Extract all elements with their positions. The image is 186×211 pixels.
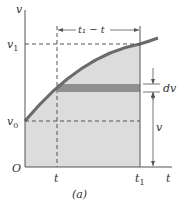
t1-label: t1: [135, 172, 145, 187]
v-height-label: v: [156, 121, 163, 134]
origin-label: O: [12, 162, 21, 175]
dv-arrow-head-top: [151, 79, 155, 84]
arrow-head-left: [58, 28, 63, 32]
t-label: t: [54, 172, 59, 185]
velocity-time-diagram: v v1 v0 O t t1 t t₁ − t dv v (a): [0, 0, 186, 211]
y-axis-label: v: [16, 3, 23, 16]
arrow-head-right: [134, 28, 139, 32]
v1-label: v1: [7, 38, 18, 53]
dv-strip: [58, 84, 140, 92]
dv-label: dv: [163, 82, 177, 95]
figure-caption: (a): [72, 188, 87, 201]
v-arrow-head-bottom: [151, 161, 155, 166]
area-under-curve: [25, 44, 140, 167]
diagram-canvas: v v1 v0 O t t1 t t₁ − t dv v (a): [0, 0, 186, 211]
x-axis-label: t: [166, 172, 171, 185]
interval-label: t₁ − t: [78, 24, 106, 35]
v0-label: v0: [7, 115, 18, 130]
